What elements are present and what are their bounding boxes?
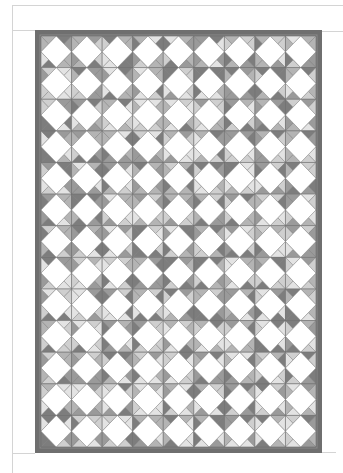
quilt-pattern (0, 0, 343, 473)
quilt-blocks (41, 36, 316, 447)
